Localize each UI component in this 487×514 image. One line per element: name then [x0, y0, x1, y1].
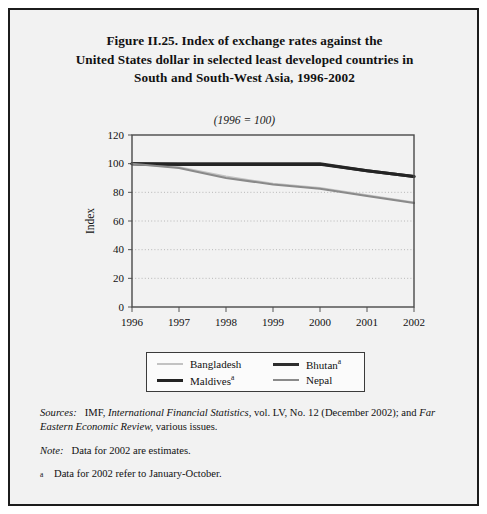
x-tick-label: 1999: [262, 316, 285, 328]
legend-footnote-mark-bhutan: a: [338, 357, 341, 366]
x-tick-label: 1998: [215, 316, 238, 328]
y-tick-label: 20: [113, 272, 125, 284]
general-note: Note:Data for 2002 are estimates.: [40, 444, 455, 458]
footnote-mark-a: a: [40, 467, 54, 482]
legend-label-bangladesh: Bangladesh: [190, 358, 241, 370]
legend-label-maldives: Maldivesa: [190, 373, 234, 387]
legend-item-bhutan: Bhutana: [273, 357, 376, 371]
y-axis-ticks-group: 020406080100120: [108, 129, 133, 313]
legend-item-maldives: Maldivesa: [157, 373, 273, 387]
sources-text-1: IMF,: [85, 407, 106, 418]
chart-legend: Bangladesh Bhutana Maldivesa Nepal: [146, 352, 365, 392]
y-tick-label: 0: [119, 301, 125, 313]
legend-swatch-bhutan-icon: [273, 363, 299, 366]
figure-frame: Figure II.25. Index of exchange rates ag…: [8, 8, 479, 506]
y-axis-label: Index: [84, 208, 96, 234]
x-tick-label: 2001: [356, 316, 378, 328]
y-tick-label: 100: [108, 157, 125, 169]
footnote-a: a Data for 2002 refer to January-October…: [40, 467, 455, 482]
sources-label: Sources:: [40, 407, 77, 418]
footnote-text-a: Data for 2002 refer to January-October.: [54, 467, 222, 481]
legend-swatch-bangladesh-icon: [157, 363, 183, 365]
series-line-maldives: [132, 164, 414, 177]
y-tick-label: 120: [108, 129, 125, 141]
sources-text-2: vol. LV, No. 12 (December 2002); and: [254, 407, 417, 418]
legend-label-bhutan: Bhutana: [306, 357, 341, 371]
sources-note: Sources:IMF, International Financial Sta…: [40, 406, 455, 433]
x-tick-label: 1997: [168, 316, 191, 328]
sources-italic-1: International Financial Statistics,: [108, 407, 251, 418]
legend-footnote-mark-maldives: a: [231, 373, 234, 382]
note-text: Data for 2002 are estimates.: [72, 445, 191, 456]
data-series-group: [132, 164, 414, 203]
legend-item-bangladesh: Bangladesh: [157, 358, 273, 370]
y-tick-label: 60: [113, 215, 125, 227]
x-tick-label: 2000: [309, 316, 332, 328]
figure-notes: Sources:IMF, International Financial Sta…: [40, 406, 455, 490]
x-tick-label: 2002: [403, 316, 425, 328]
gridlines-group: [132, 192, 414, 278]
y-tick-label: 80: [113, 186, 125, 198]
y-tick-label: 40: [113, 243, 125, 255]
x-tick-label: 1996: [121, 316, 144, 328]
x-axis-ticks-group: 1996199719981999200020012002: [121, 307, 425, 328]
legend-swatch-nepal-icon: [273, 379, 299, 381]
legend-swatch-maldives-icon: [157, 379, 183, 382]
legend-label-nepal: Nepal: [306, 374, 332, 386]
sources-text-3: various issues.: [156, 421, 218, 432]
legend-item-nepal: Nepal: [273, 374, 376, 386]
note-label: Note:: [40, 445, 64, 456]
